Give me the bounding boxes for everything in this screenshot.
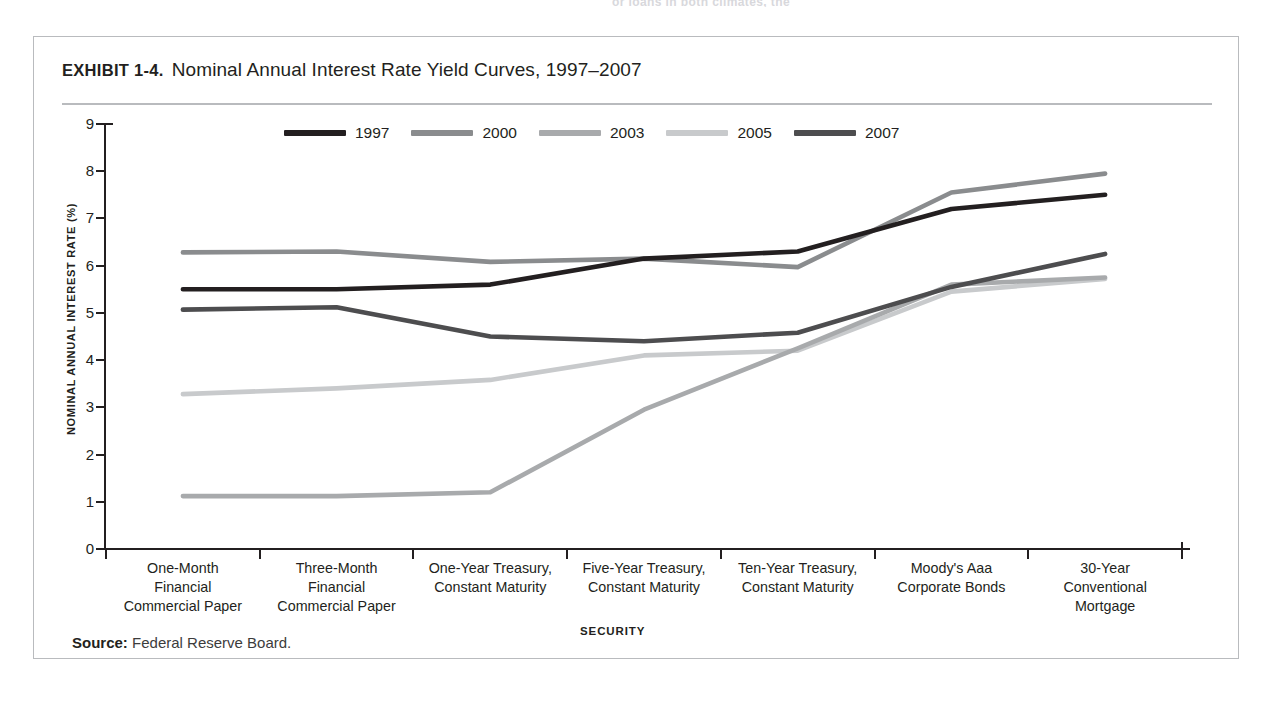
- x-category-line: 30-Year: [1028, 559, 1182, 578]
- x-category-line: Three-Month: [260, 559, 414, 578]
- x-category-label: 30-YearConventionalMortgage: [1028, 559, 1182, 616]
- x-category-line: Five-Year Treasury,: [567, 559, 721, 578]
- legend-item-1997[interactable]: 1997: [284, 125, 389, 141]
- series-line-2005: [183, 279, 1105, 394]
- legend-label: 2000: [482, 125, 516, 141]
- x-category-line: Conventional: [1028, 578, 1182, 597]
- x-category-line: Commercial Paper: [106, 597, 260, 616]
- legend-item-2003[interactable]: 2003: [539, 125, 644, 141]
- x-axis-title: SECURITY: [580, 625, 645, 637]
- chart-legend: 19972000200320052007: [284, 125, 921, 141]
- chart-plot-area: NOMINAL ANNUAL INTEREST RATE (%) 0123456…: [34, 37, 1240, 660]
- series-line-1997: [183, 195, 1105, 289]
- x-category-label: Ten-Year Treasury,Constant Maturity: [721, 559, 875, 597]
- source-label: Source:: [72, 634, 128, 651]
- x-category-label: Three-MonthFinancialCommercial Paper: [260, 559, 414, 616]
- legend-label: 2005: [737, 125, 771, 141]
- x-category-line: Financial: [106, 578, 260, 597]
- x-category-line: One-Month: [106, 559, 260, 578]
- cutoff-running-text: or loans in both climates, the: [612, 0, 790, 7]
- x-category-line: Corporate Bonds: [875, 578, 1029, 597]
- series-line-2000: [183, 174, 1105, 268]
- x-category-line: Constant Maturity: [721, 578, 875, 597]
- x-category-line: Moody's Aaa: [875, 559, 1029, 578]
- legend-swatch-icon: [539, 130, 601, 136]
- x-category-label: Five-Year Treasury,Constant Maturity: [567, 559, 721, 597]
- x-category-line: Financial: [260, 578, 414, 597]
- x-category-line: Constant Maturity: [567, 578, 721, 597]
- legend-swatch-icon: [411, 130, 473, 136]
- page-root: or loans in both climates, the EXHIBIT 1…: [0, 0, 1269, 712]
- legend-swatch-icon: [794, 130, 856, 136]
- legend-label: 2003: [610, 125, 644, 141]
- source-note: Source: Federal Reserve Board.: [72, 634, 291, 651]
- legend-swatch-icon: [666, 130, 728, 136]
- legend-item-2000[interactable]: 2000: [411, 125, 516, 141]
- legend-label: 1997: [355, 125, 389, 141]
- legend-item-2005[interactable]: 2005: [666, 125, 771, 141]
- x-category-line: Constant Maturity: [413, 578, 567, 597]
- x-category-line: Ten-Year Treasury,: [721, 559, 875, 578]
- legend-label: 2007: [865, 125, 899, 141]
- x-category-line: One-Year Treasury,: [413, 559, 567, 578]
- exhibit-frame: EXHIBIT 1-4. Nominal Annual Interest Rat…: [33, 36, 1239, 659]
- x-category-label: One-Year Treasury,Constant Maturity: [413, 559, 567, 597]
- legend-swatch-icon: [284, 130, 346, 136]
- series-line-2007: [183, 254, 1105, 341]
- source-value: Federal Reserve Board.: [132, 634, 291, 651]
- x-category-line: Mortgage: [1028, 597, 1182, 616]
- x-category-label: Moody's AaaCorporate Bonds: [875, 559, 1029, 597]
- x-category-line: Commercial Paper: [260, 597, 414, 616]
- x-category-label: One-MonthFinancialCommercial Paper: [106, 559, 260, 616]
- legend-item-2007[interactable]: 2007: [794, 125, 899, 141]
